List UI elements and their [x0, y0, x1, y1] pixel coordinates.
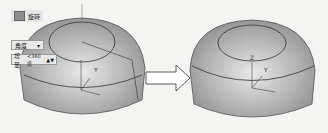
cad-viewport: Y Z Y: [0, 0, 328, 133]
transform-arrow-icon: [146, 65, 190, 91]
svg-text:Y: Y: [93, 66, 98, 73]
increment-field[interactable]: 增量 <360度 ▲▼: [11, 54, 57, 65]
increment-value[interactable]: <360度: [27, 53, 44, 66]
rotate-icon: [14, 11, 25, 21]
title-label: 旋转: [28, 12, 40, 21]
mode-dropdown[interactable]: 角度 ▾: [11, 40, 44, 50]
rotate-title: 旋转: [11, 10, 43, 22]
increment-label: 增量: [14, 51, 25, 69]
chevron-down-icon: ▾: [37, 42, 40, 49]
svg-text:Z: Z: [250, 54, 254, 61]
svg-text:Y: Y: [263, 66, 268, 73]
spinner-icon[interactable]: ▲▼: [46, 58, 54, 62]
after-dome-model: Z Y: [190, 20, 315, 117]
mode-value: 角度: [15, 41, 27, 50]
